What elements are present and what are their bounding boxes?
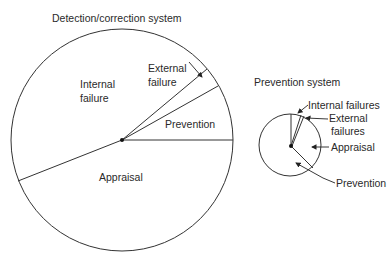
external-failure-leader-arrow xyxy=(189,62,202,77)
label-small-prevention: Prevention xyxy=(336,177,386,189)
label-external-failure-line1: External xyxy=(148,62,187,74)
internal-failures-leader-arrow xyxy=(298,105,308,113)
small-pie-center-dot xyxy=(289,144,293,148)
large-pie-title: Detection/correction system xyxy=(52,12,182,24)
external-failures-leader-arrow xyxy=(306,118,328,119)
label-internal-failures: Internal failures xyxy=(308,99,380,111)
divider-external-prevention xyxy=(122,86,218,140)
label-prevention: Prevention xyxy=(165,118,215,130)
label-external-failures-line1: External xyxy=(329,112,368,124)
prevention-leader-arrow xyxy=(296,163,335,183)
large-pie-center-dot xyxy=(120,138,124,142)
small-divider-appraisal-prevention xyxy=(291,146,313,168)
label-external-failure-line2: failure xyxy=(148,76,177,88)
label-external-failures-line2: failures xyxy=(331,125,365,137)
label-internal-failure-line1: Internal xyxy=(80,78,115,90)
label-appraisal: Appraisal xyxy=(99,171,143,183)
label-small-appraisal: Appraisal xyxy=(331,141,375,153)
small-pie-chart xyxy=(259,105,335,183)
small-divider-internal-external-b xyxy=(292,116,304,146)
small-pie-title: Prevention system xyxy=(254,76,340,88)
label-internal-failure-line2: failure xyxy=(80,92,109,104)
small-divider-internal-external-a xyxy=(291,115,301,146)
large-pie-chart xyxy=(11,29,233,251)
